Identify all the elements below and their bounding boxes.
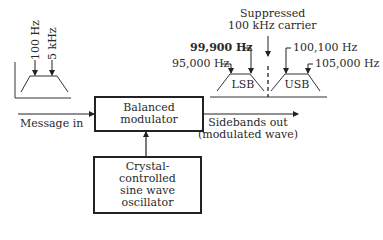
message-in-label: Message in <box>20 118 83 130</box>
usb-inner-freq: 100,100 Hz <box>293 42 357 54</box>
usb-outer-freq: 105,000 Hz <box>315 58 379 70</box>
label-100hz: 100 Hz <box>30 20 42 60</box>
oscillator-block: Crystal- controlled sine wave oscillator <box>93 156 202 214</box>
usb-label: USB <box>282 79 312 91</box>
modulated-wave-label: (modulated wave) <box>195 129 301 141</box>
balanced-modulator-block: Balanced modulator <box>94 96 204 132</box>
label-5khz: 5 kHz <box>47 27 59 60</box>
lsb-outer-freq: 95,000 Hz <box>172 58 229 70</box>
lsb-label: LSB <box>228 79 258 91</box>
input-spectrum <box>15 60 71 98</box>
modulator-line2: modulator <box>120 114 178 126</box>
carrier-label-line2: 100 kHz carrier <box>228 20 312 32</box>
oscillator-line4: oscillator <box>122 197 174 209</box>
lsb-inner-freq: 99,900 Hz <box>190 42 253 54</box>
